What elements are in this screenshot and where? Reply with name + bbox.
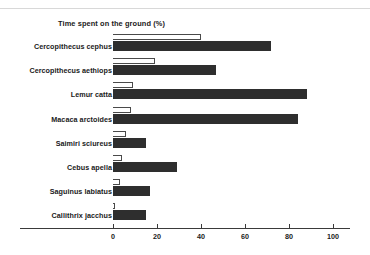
x-tick-label-40: 40	[197, 232, 205, 241]
chart-figure: Time spent on the ground (%) Cercopithec…	[0, 0, 370, 255]
bar-filled-1	[113, 41, 271, 51]
bar-filled-6	[113, 162, 177, 172]
bar-open-5	[113, 131, 126, 137]
category-label-7: Saguinus labiatus	[50, 187, 112, 196]
bar-open-2	[113, 58, 155, 64]
bar-filled-7	[113, 186, 150, 196]
bar-filled-2	[113, 65, 216, 75]
x-tick-40	[201, 224, 202, 229]
x-tick-60	[245, 224, 246, 229]
chart-row: Callithrix jacchus	[0, 202, 370, 226]
bar-open-1	[113, 34, 201, 40]
x-tick-20	[157, 224, 158, 229]
chart-row: Macaca arctoides	[0, 106, 370, 130]
category-label-3: Lemur catta	[71, 90, 112, 99]
chart-row: Saguinus labiatus	[0, 178, 370, 202]
bar-filled-3	[113, 89, 307, 99]
chart-row: Cercopithecus cephus	[0, 33, 370, 57]
x-tick-label-80: 80	[285, 232, 293, 241]
x-tick-0	[113, 224, 114, 229]
category-label-4: Macaca arctoides	[51, 115, 112, 124]
chart-row: Saimiri sciureus	[0, 130, 370, 154]
x-tick-80	[289, 224, 290, 229]
category-label-2: Cercopithecus aethiops	[29, 66, 112, 75]
x-tick-label-60: 60	[241, 232, 249, 241]
x-tick-label-100: 100	[327, 232, 339, 241]
bar-open-6	[113, 155, 122, 161]
bar-filled-4	[113, 114, 298, 124]
chart-row: Cebus apella	[0, 154, 370, 178]
category-label-5: Saimiri sciureus	[56, 139, 112, 148]
category-label-6: Cebus apella	[67, 163, 112, 172]
bar-open-8	[113, 203, 115, 209]
category-label-1: Cercopithecus cephus	[34, 42, 112, 51]
bar-open-7	[113, 179, 120, 185]
bar-filled-8	[113, 210, 146, 220]
chart-row: Lemur catta	[0, 81, 370, 105]
plot-area: Cercopithecus cephusCercopithecus aethio…	[0, 0, 370, 255]
x-tick-label-20: 20	[153, 232, 161, 241]
x-tick-label-0: 0	[111, 232, 115, 241]
chart-row: Cercopithecus aethiops	[0, 57, 370, 81]
bar-open-4	[113, 107, 131, 113]
x-tick-100	[333, 224, 334, 229]
x-axis-line	[20, 228, 350, 229]
category-label-8: Callithrix jacchus	[52, 211, 112, 220]
bar-filled-5	[113, 138, 146, 148]
bar-open-3	[113, 82, 133, 88]
